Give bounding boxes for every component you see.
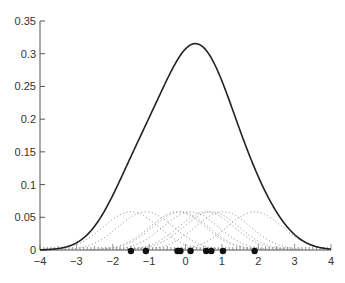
x-tick-label: −3 (70, 255, 83, 267)
kernel-curve (102, 212, 279, 250)
data-point-marker (251, 248, 257, 254)
x-tick-label: −1 (143, 255, 156, 267)
kde-chart: 00.050.10.150.20.250.30.35−4−3−2−101234 (0, 0, 345, 283)
axes: 00.050.10.150.20.250.30.35−4−3−2−101234 (15, 15, 334, 267)
data-point-marker (177, 248, 183, 254)
kernel-curve (57, 212, 234, 250)
x-tick-label: 1 (219, 255, 225, 267)
x-tick-label: 0 (182, 255, 188, 267)
y-tick-label: 0.05 (15, 211, 36, 223)
y-tick-label: 0.1 (21, 179, 36, 191)
data-point-marker (187, 248, 193, 254)
y-tick-label: 0.15 (15, 146, 36, 158)
y-tick-label: 0.25 (15, 80, 36, 92)
data-point-marker (208, 248, 214, 254)
x-tick-label: 2 (255, 255, 261, 267)
data-points (128, 248, 258, 254)
data-point-marker (220, 248, 226, 254)
x-tick-label: 3 (292, 255, 298, 267)
kde-curve (40, 44, 331, 250)
kernel-curve (166, 212, 330, 250)
kernel-curves (42, 212, 330, 250)
kernel-curve (92, 212, 269, 250)
y-tick-label: 0.3 (21, 48, 36, 60)
y-tick-label: 0.35 (15, 15, 36, 27)
x-tick-label: −2 (106, 255, 119, 267)
y-tick-label: 0.2 (21, 113, 36, 125)
x-tick-label: −4 (34, 255, 47, 267)
data-point-marker (143, 248, 149, 254)
data-point-marker (128, 248, 134, 254)
x-tick-label: 4 (328, 255, 334, 267)
